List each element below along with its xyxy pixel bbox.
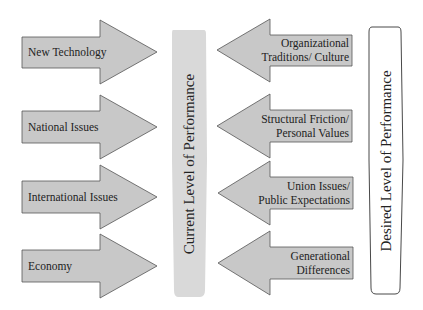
restraining-force-line2: Differences [291,263,350,277]
restraining-force-label: Union Issues/ Public Expectations [258,179,350,207]
restraining-force-label: Generational Differences [291,249,350,277]
restraining-force-line2: Personal Values [261,126,349,140]
restraining-force-line2: Public Expectations [258,193,350,207]
driving-force-label: International Issues [28,190,118,204]
restraining-force-line1: Organizational [262,36,349,50]
restraining-force-label: Organizational Traditions/ Culture [262,36,349,64]
restraining-force-line1: Union Issues/ [258,179,350,193]
force-field-diagram: New Technology National Issues Internati… [0,0,423,310]
desired-level-label: Desired Level of Performance [377,61,395,261]
current-level-label: Current Level of Performance [180,64,198,264]
driving-force-label: National Issues [28,120,99,134]
restraining-force-line1: Generational [291,249,350,263]
driving-force-label: Economy [28,259,72,273]
restraining-force-label: Structural Friction/ Personal Values [261,112,349,140]
restraining-force-line2: Traditions/ Culture [262,50,349,64]
driving-force-label: New Technology [28,45,107,59]
restraining-force-line1: Structural Friction/ [261,112,349,126]
